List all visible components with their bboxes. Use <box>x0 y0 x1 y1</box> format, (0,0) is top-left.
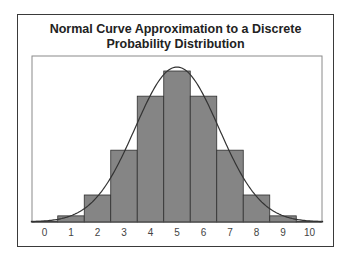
x-tick-label-4: 4 <box>148 227 154 238</box>
x-tick-label-9: 9 <box>280 227 286 238</box>
bar-5 <box>164 71 191 222</box>
x-tick-label-0: 0 <box>42 227 48 238</box>
x-tick-label-6: 6 <box>201 227 207 238</box>
x-tick-labels: 012345678910 <box>42 227 316 238</box>
bars-group <box>31 71 323 222</box>
x-tick-label-8: 8 <box>254 227 260 238</box>
chart-plot: 012345678910 <box>0 0 352 263</box>
bar-7 <box>217 150 244 222</box>
bar-2 <box>84 195 111 222</box>
x-tick-label-7: 7 <box>227 227 233 238</box>
bar-8 <box>243 195 270 222</box>
bar-3 <box>111 150 138 222</box>
x-tick-label-1: 1 <box>68 227 74 238</box>
x-tick-label-2: 2 <box>95 227 101 238</box>
x-tick-label-3: 3 <box>121 227 127 238</box>
x-tick-label-10: 10 <box>304 227 316 238</box>
x-tick-label-5: 5 <box>174 227 180 238</box>
